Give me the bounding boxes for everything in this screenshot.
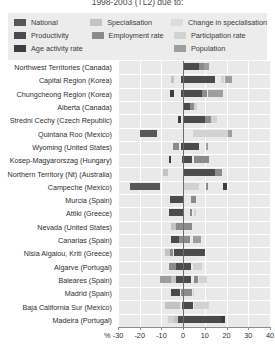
bar-segment[interactable]: [221, 76, 224, 83]
bar-segment[interactable]: [169, 209, 184, 216]
bar-row: [118, 287, 270, 300]
bar-segment[interactable]: [193, 236, 201, 243]
stacked-bar[interactable]: [118, 103, 270, 110]
stacked-bar[interactable]: [118, 276, 270, 283]
stacked-bar[interactable]: [118, 209, 270, 216]
legend-swatch-icon: [92, 32, 104, 39]
bar-segment[interactable]: [206, 143, 208, 150]
stacked-bar[interactable]: [118, 90, 270, 97]
stacked-bar[interactable]: [118, 223, 270, 230]
bar-segment[interactable]: [140, 130, 157, 137]
bar-segment[interactable]: [178, 116, 181, 123]
y-axis-tick-label: Attiki (Greece): [66, 209, 112, 218]
bar-segment[interactable]: [190, 209, 192, 216]
legend-label: Specialisation: [107, 19, 152, 27]
bar-segment[interactable]: [193, 263, 202, 270]
chart-legend: NationalSpecialisationChange in speciali…: [8, 13, 267, 60]
bar-segment[interactable]: [223, 183, 226, 190]
bar-segment[interactable]: [194, 276, 198, 283]
bar-segment[interactable]: [171, 289, 180, 296]
stacked-bar[interactable]: [118, 249, 270, 256]
bar-segment[interactable]: [228, 130, 232, 137]
legend-label: Age activity rate: [31, 45, 83, 53]
stacked-bar[interactable]: [118, 316, 270, 323]
bar-segment[interactable]: [215, 169, 223, 176]
legend-item[interactable]: Employment rate: [92, 32, 174, 40]
bar-segment[interactable]: [169, 263, 176, 270]
legend-item[interactable]: Participation rate: [174, 32, 263, 40]
legend-label: Employment rate: [109, 32, 164, 40]
bar-row: [118, 181, 270, 194]
bar-segment[interactable]: [170, 90, 174, 97]
stacked-bar[interactable]: [118, 302, 270, 309]
bar-segment[interactable]: [193, 289, 194, 296]
x-axis-tick-label: -10: [151, 331, 171, 341]
bar-segment[interactable]: [194, 209, 196, 216]
legend-swatch-icon: [14, 32, 26, 39]
bar-segment[interactable]: [170, 249, 173, 256]
bar-segment[interactable]: [225, 76, 232, 83]
bar-segment[interactable]: [193, 130, 228, 137]
legend-item[interactable]: Change in specialisation: [171, 19, 263, 27]
bar-segment[interactable]: [194, 302, 209, 309]
bar-segment[interactable]: [208, 90, 223, 97]
bar-segment[interactable]: [184, 169, 214, 176]
bar-segment[interactable]: [169, 156, 171, 163]
legend-item[interactable]: National: [14, 19, 90, 27]
bar-segment[interactable]: [191, 196, 196, 203]
stacked-bar[interactable]: [118, 169, 270, 176]
x-axis-tick-label: 10: [195, 331, 215, 341]
y-axis-tick-label: Alberta (Canada): [57, 103, 112, 112]
bar-row: [118, 300, 270, 313]
bar-segment[interactable]: [194, 103, 197, 110]
stacked-bar[interactable]: [118, 130, 270, 137]
bar-segment[interactable]: [174, 249, 204, 256]
bar-segment[interactable]: [171, 76, 174, 83]
bar-segment[interactable]: [178, 316, 221, 323]
bar-segment[interactable]: [204, 63, 209, 70]
bar-segment[interactable]: [205, 116, 212, 123]
x-axis-tick: [270, 327, 271, 330]
bar-segment[interactable]: [211, 116, 216, 123]
stacked-bar[interactable]: [118, 116, 270, 123]
bar-segment[interactable]: [206, 183, 208, 190]
bar-segment[interactable]: [183, 63, 199, 70]
bar-segment[interactable]: [168, 316, 175, 323]
legend-item[interactable]: Population: [174, 45, 263, 53]
y-axis-tick-label: Baja California Sur (Mexico): [23, 303, 112, 312]
bar-segment[interactable]: [171, 236, 179, 243]
stacked-bar[interactable]: [118, 143, 270, 150]
chart-figure: 1998-2003 (TL2) due to: NationalSpeciali…: [0, 0, 275, 352]
bar-segment[interactable]: [199, 276, 207, 283]
legend-label: Participation rate: [191, 32, 246, 40]
stacked-bar[interactable]: [118, 263, 270, 270]
bar-segment[interactable]: [130, 183, 160, 190]
bar-segment[interactable]: [165, 302, 180, 309]
y-axis-labels: Northwest Territories (Canada)Capital Re…: [0, 61, 115, 327]
x-axis-line: [118, 327, 270, 328]
legend-item[interactable]: Specialisation: [90, 19, 171, 27]
stacked-bar[interactable]: [118, 156, 270, 163]
bar-segment[interactable]: [179, 236, 190, 243]
bar-segment[interactable]: [202, 90, 207, 97]
stacked-bar[interactable]: [118, 196, 270, 203]
bar-segment[interactable]: [173, 143, 178, 150]
bar-segment[interactable]: [163, 169, 168, 176]
x-axis-tick: [205, 327, 206, 330]
stacked-bar[interactable]: [118, 76, 270, 83]
stacked-bar[interactable]: [118, 236, 270, 243]
bar-segment[interactable]: [160, 276, 171, 283]
bar-segment[interactable]: [183, 116, 205, 123]
bar-segment[interactable]: [170, 196, 184, 203]
bar-segment[interactable]: [181, 76, 215, 83]
bar-segment[interactable]: [194, 156, 209, 163]
legend-item[interactable]: Age activity rate: [14, 45, 92, 53]
stacked-bar[interactable]: [118, 63, 270, 70]
stacked-bar[interactable]: [118, 183, 270, 190]
legend-item[interactable]: Productivity: [14, 32, 92, 40]
x-axis-tick: [118, 327, 119, 330]
bar-segment[interactable]: [184, 183, 199, 190]
y-axis-tick-label: Stredni Cechy (Czech Republic): [10, 116, 112, 125]
stacked-bar[interactable]: [118, 289, 270, 296]
bar-segment[interactable]: [221, 316, 225, 323]
